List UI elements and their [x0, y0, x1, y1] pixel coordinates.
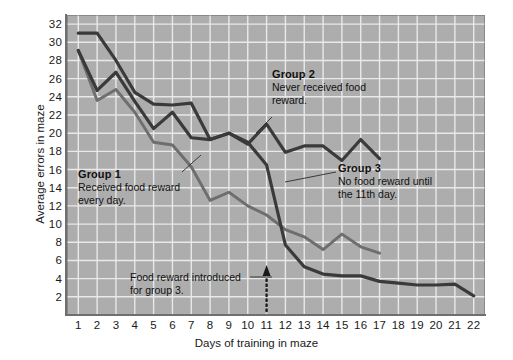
leader-line-group-3 — [285, 172, 336, 182]
annotation-group-3-heading: Group 3 — [338, 162, 432, 175]
leader-line-group-1 — [182, 155, 201, 172]
annotation-group-1-heading: Group 1 — [78, 168, 180, 181]
annotation-group-1-line1: Received food reward — [78, 181, 180, 194]
annotation-leaders — [0, 0, 513, 360]
annotation-group-2-heading: Group 2 — [272, 68, 366, 81]
annotation-food-reward-introduced: Food reward introduced for group 3. — [130, 271, 241, 296]
leader-line-group-2 — [256, 117, 272, 133]
annotation-group-2: Group 2 Never received food reward. — [272, 68, 366, 106]
annotation-intro-line2: for group 3. — [130, 284, 241, 297]
dotted-arrow-head — [263, 265, 271, 276]
annotation-group-1-line2: every day. — [78, 194, 180, 207]
annotation-group-3-line2: the 11th day. — [338, 188, 432, 201]
annotation-group-1: Group 1 Received food reward every day. — [78, 168, 180, 206]
annotation-group-3-line1: No food reward until — [338, 175, 432, 188]
annotation-group-2-line1: Never received food — [272, 81, 366, 94]
annotation-group-3: Group 3 No food reward until the 11th da… — [338, 162, 432, 200]
annotation-intro-line1: Food reward introduced — [130, 271, 241, 284]
annotation-group-2-line2: reward. — [272, 94, 366, 107]
chart-root: 3230282624222018161412108642 12345678910… — [0, 0, 513, 360]
